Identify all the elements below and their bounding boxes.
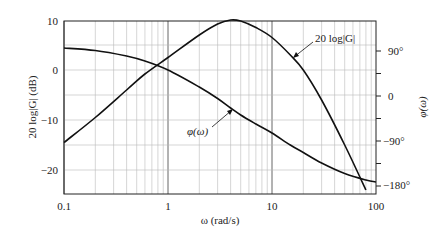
- x-tick-100: 100: [368, 200, 385, 212]
- y2-axis-label: φ(ω): [416, 96, 429, 118]
- phase-annotation: φ(ω): [187, 125, 209, 138]
- y-tick-neg10: −10: [41, 114, 59, 126]
- magnitude-annotation: 20 log|G|: [315, 32, 355, 44]
- x-tick-1: 1: [165, 200, 171, 212]
- plot-frame: [64, 21, 376, 194]
- y2-tick-neg180: −180°: [383, 179, 410, 191]
- y2-tick-0: 0: [388, 90, 394, 102]
- phase-arrowhead: [227, 109, 233, 115]
- y-tick-neg20: −20: [41, 164, 59, 176]
- y-axis-label: 20 log|G| (dB): [26, 75, 39, 138]
- grid-lines: [64, 21, 376, 194]
- bode-plot: 10 0 −10 −20 0.1 1 10 100 90° 0 −90° −18…: [0, 0, 441, 233]
- x-tick-0.1: 0.1: [57, 200, 71, 212]
- x-axis-label: ω (rad/s): [201, 214, 240, 227]
- y2-tick-neg90: −90°: [383, 135, 405, 147]
- magnitude-curve: [64, 20, 366, 190]
- y-tick-10: 10: [47, 15, 59, 27]
- y2-tick-90: 90°: [388, 45, 403, 57]
- y-tick-0: 0: [53, 64, 59, 76]
- right-axis-ticks: [376, 51, 381, 186]
- x-tick-10: 10: [267, 200, 279, 212]
- magnitude-arrowhead: [293, 52, 299, 58]
